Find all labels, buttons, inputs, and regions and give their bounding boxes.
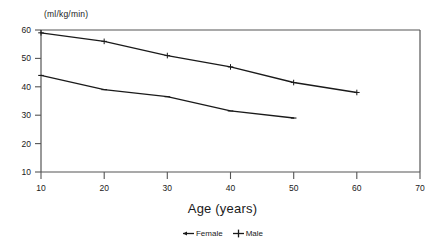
x-tick-label-10: 10	[29, 183, 53, 193]
x-tick-label-20: 20	[92, 183, 116, 193]
y-tick-label-60: 60	[9, 25, 31, 35]
legend-item-female[interactable]: Female	[182, 229, 223, 238]
x-tick-label-40: 40	[219, 183, 243, 193]
dash-marker-icon	[182, 229, 195, 238]
chart-container: (ml/kg/min) 60 50 40 30 20 10 10 20 30 4…	[0, 0, 445, 248]
legend-item-male[interactable]: Male	[232, 229, 263, 238]
x-tick-label-50: 50	[282, 183, 306, 193]
legend-label-male: Male	[246, 230, 263, 238]
legend-label-female: Female	[196, 230, 223, 238]
y-axis-unit-label: (ml/kg/min)	[44, 9, 88, 19]
series-male-line	[41, 33, 357, 93]
y-tick-label-30: 30	[9, 110, 31, 120]
y-axis-ticks	[35, 30, 41, 172]
x-tick-label-60: 60	[345, 183, 369, 193]
series-female	[38, 75, 296, 118]
plus-marker-icon	[232, 229, 245, 238]
x-axis-ticks	[41, 172, 420, 179]
axis-frame	[41, 30, 420, 172]
x-tick-label-30: 30	[155, 183, 179, 193]
y-tick-label-40: 40	[9, 82, 31, 92]
y-tick-label-20: 20	[9, 139, 31, 149]
y-tick-label-50: 50	[9, 53, 31, 63]
x-tick-label-70: 70	[408, 183, 432, 193]
chart-legend: Female Male	[0, 229, 445, 238]
series-female-markers	[38, 75, 296, 118]
y-tick-label-10: 10	[9, 167, 31, 177]
x-axis-title: Age (years)	[0, 201, 445, 216]
